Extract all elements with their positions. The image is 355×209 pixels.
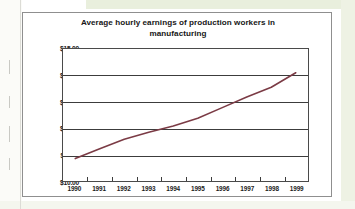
chart-title: Average hourly earnings of production wo…: [47, 18, 309, 39]
x-axis-tick-label: 1993: [142, 185, 156, 192]
x-axis-tick-label: 1999: [290, 185, 304, 192]
margin-artifact-icon: [9, 126, 10, 142]
x-axis-tick-label: 1991: [92, 185, 106, 192]
margin-artifact-icon: [9, 60, 10, 74]
chart-title-line-2: manufacturing: [47, 29, 309, 40]
x-axis-tick-label: 1995: [191, 185, 205, 192]
series-line-average-hourly-earnings: [63, 49, 308, 181]
x-axis-tick-label: 1990: [67, 185, 81, 192]
plot-area: [62, 48, 309, 182]
x-axis-tick-label: 1994: [166, 185, 180, 192]
scanned-page: Average hourly earnings of production wo…: [0, 0, 355, 209]
page-bottom-tint: [0, 201, 355, 209]
page-right-tint: [341, 0, 355, 209]
page-left-edge-line: [20, 0, 21, 209]
margin-artifact-icon: [9, 96, 10, 108]
chart-container: Average hourly earnings of production wo…: [22, 12, 332, 197]
page-left-margin: [0, 0, 22, 209]
x-axis-tick-label: 1996: [216, 185, 230, 192]
chart-title-line-1: Average hourly earnings of production wo…: [47, 18, 309, 29]
x-axis-tick-label: 1997: [240, 185, 254, 192]
page-top-tint: [86, 0, 355, 9]
x-axis-tick-label: 1992: [117, 185, 131, 192]
margin-artifact-icon: [9, 158, 10, 170]
x-axis-tick-label: 1998: [265, 185, 279, 192]
